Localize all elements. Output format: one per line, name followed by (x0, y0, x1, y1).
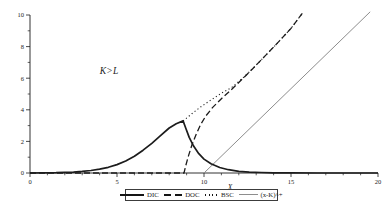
legend-line-solid-thin (239, 194, 258, 195)
line-chart: 051015200246810XK>L (0, 0, 391, 212)
y-tick-label: 0 (21, 169, 24, 176)
x-tick-label: 0 (28, 178, 31, 185)
legend-line-dashed (164, 194, 183, 196)
y-tick-label: 4 (21, 106, 25, 113)
legend-line-solid-thick (120, 194, 144, 196)
x-tick-label: 20 (375, 178, 382, 185)
y-tick-label: 6 (21, 75, 25, 82)
legend: DIC DOC BSC (x-K)^+ (125, 189, 278, 201)
y-tick-label: 10 (18, 11, 25, 18)
legend-label-bsc: BSC (221, 192, 234, 199)
y-tick-label: 8 (21, 43, 24, 50)
series-doc (30, 13, 302, 173)
annotation-k-gt-l: K>L (99, 66, 119, 76)
series-dic (30, 121, 378, 173)
figure: 051015200246810XK>L DIC DOC BSC (x-K)^+ (0, 0, 391, 212)
x-tick-label: 10 (201, 178, 208, 185)
legend-label-dic: DIC (147, 192, 159, 199)
legend-item-bsc: BSC (205, 192, 234, 199)
legend-line-dotted (205, 194, 219, 195)
legend-item-dic: DIC (120, 192, 158, 199)
x-tick-label: 15 (288, 178, 295, 185)
legend-item-payoff: (x-K)^+ (239, 192, 283, 199)
legend-label-doc: DOC (185, 192, 199, 199)
legend-label-payoff: (x-K)^+ (260, 192, 282, 199)
series-bsc (183, 13, 302, 121)
legend-item-doc: DOC (164, 192, 200, 199)
x-tick-label: 5 (115, 178, 118, 185)
y-tick-label: 2 (21, 138, 24, 145)
